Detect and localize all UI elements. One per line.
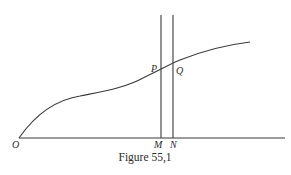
figure-55-1: O P Q M N Figure 55,1 — [0, 0, 291, 175]
label-p: P — [150, 63, 157, 74]
label-m: M — [153, 139, 163, 150]
label-n: N — [169, 139, 178, 150]
figure-caption: Figure 55,1 — [118, 151, 171, 164]
curve — [19, 42, 250, 138]
label-o: O — [12, 139, 19, 150]
label-q: Q — [176, 65, 184, 76]
